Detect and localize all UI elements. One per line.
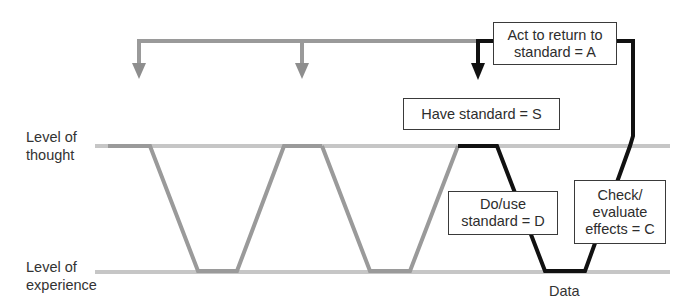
past-cycle-2-path bbox=[322, 146, 458, 271]
act-box: Act to return to standard = A bbox=[493, 22, 617, 65]
do-use-standard-box: Do/use standard = D bbox=[448, 191, 558, 235]
down-arrow-gray-1-icon bbox=[132, 63, 146, 79]
down-arrow-gray-2-icon bbox=[295, 63, 309, 79]
check-evaluate-box: Check/ evaluate effects = C bbox=[574, 180, 666, 244]
down-arrow-black-icon bbox=[471, 63, 485, 80]
have-standard-box: Have standard = S bbox=[403, 98, 560, 130]
feedback-bar-gray bbox=[139, 41, 476, 66]
level-of-thought-label: Level of thought bbox=[26, 128, 77, 164]
act-feedback-path bbox=[478, 41, 493, 66]
level-of-experience-label: Level of experience bbox=[26, 258, 97, 294]
past-cycle-1-path bbox=[108, 146, 322, 271]
data-label: Data bbox=[549, 283, 580, 299]
